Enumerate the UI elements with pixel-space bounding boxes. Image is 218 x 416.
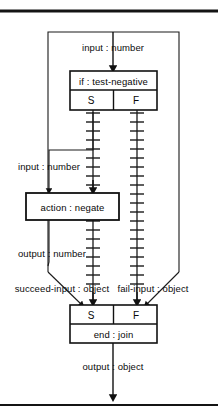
- end-node-port-s[interactable]: S: [88, 309, 95, 320]
- action-node-header: action : negate: [41, 201, 105, 212]
- flowchart-svg: [0, 0, 218, 416]
- edge-label-action-input: input : number: [18, 161, 80, 172]
- if-node-port-f[interactable]: F: [133, 95, 139, 106]
- edge-label-end-output: output : object: [82, 361, 143, 372]
- action-input-edge: [49, 112, 93, 191]
- fail-channel: [130, 110, 144, 301]
- end-node-port-f[interactable]: F: [133, 309, 139, 320]
- if-node-port-s[interactable]: S: [88, 95, 95, 106]
- if-node-header: if : test-negative: [79, 75, 148, 86]
- edge-label-fail-input: fail-input : object: [117, 283, 188, 294]
- edge-label-action-output: output : number: [18, 248, 86, 259]
- end-node-header: end : join: [94, 328, 134, 339]
- edge-label-if-input: input : number: [82, 42, 144, 53]
- edge-label-succeed-input: succeed-input : object: [15, 283, 110, 294]
- diagram-canvas: if : test-negative S F action : negate S…: [0, 0, 218, 416]
